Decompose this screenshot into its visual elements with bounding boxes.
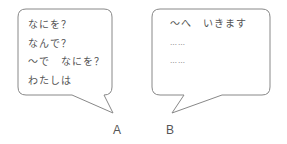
bubble-b-text: 〜へ いきます …… …… xyxy=(170,15,247,71)
bubble-a-line: なにを？ xyxy=(28,16,105,35)
bubble-b-line: …… xyxy=(170,34,247,53)
bubble-a-text: なにを？ なんで？ 〜で なにを？ わたしは xyxy=(28,16,105,90)
bubble-a-line: なんで？ xyxy=(28,35,105,54)
bubble-a-line: わたしは xyxy=(28,72,105,91)
bubble-b-line: …… xyxy=(170,52,247,71)
bubble-a-line: 〜で なにを？ xyxy=(28,53,105,72)
bubble-b-line: 〜へ いきます xyxy=(170,15,247,34)
label-a: A xyxy=(113,123,121,137)
label-b: B xyxy=(166,123,174,137)
